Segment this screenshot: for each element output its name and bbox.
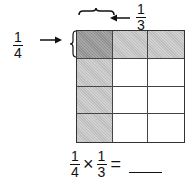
arrow-right-icon	[39, 35, 63, 45]
grid-cell-shaded	[77, 87, 113, 115]
grid-cell	[113, 87, 149, 115]
grid-cell	[113, 114, 149, 142]
column-fraction-label: 1 3	[136, 3, 146, 32]
equation: 1 4 × 1 3 =	[70, 150, 162, 178]
grid-cell	[148, 87, 184, 115]
grid-cell-shaded	[77, 114, 113, 142]
grid-cell	[148, 59, 184, 87]
right-denominator: 3	[98, 166, 106, 178]
grid-cell	[113, 59, 149, 87]
equals-sign: =	[111, 154, 122, 175]
times-operator: ×	[83, 154, 94, 175]
answer-blank[interactable]	[129, 172, 162, 173]
grid-cell-shaded	[77, 59, 113, 87]
left-numerator: 1	[71, 150, 79, 163]
column-fraction-numerator: 1	[137, 3, 145, 16]
left-denominator: 4	[71, 166, 79, 178]
row-fraction-denominator: 4	[14, 47, 22, 60]
equation-right-fraction: 1 3	[97, 150, 107, 178]
row-fraction-label: 1 4	[13, 31, 23, 60]
right-numerator: 1	[98, 150, 106, 163]
grid-cell-shaded	[113, 31, 149, 59]
area-model-grid	[76, 30, 185, 143]
arrow-left-icon	[109, 13, 131, 23]
grid-cell-overlap	[77, 31, 113, 59]
equation-left-fraction: 1 4	[70, 150, 80, 178]
row-fraction-numerator: 1	[14, 31, 22, 44]
grid-cell-shaded	[148, 31, 184, 59]
grid-cell	[148, 114, 184, 142]
